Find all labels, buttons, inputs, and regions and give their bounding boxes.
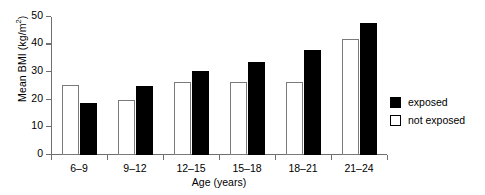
bmi-bar-chart-figure: Mean BMI (kg/m2) 01020304050 6–99–1212–1… <box>0 0 485 195</box>
y-axis-tick: 20 <box>46 99 51 100</box>
bar-not-exposed <box>62 85 79 155</box>
x-axis-category-label: 18–21 <box>288 162 317 174</box>
bar-exposed <box>192 71 209 155</box>
legend-item: exposed <box>390 94 465 110</box>
x-axis-category-label: 15–18 <box>232 162 261 174</box>
y-axis-tick: 10 <box>46 126 51 127</box>
x-axis-tick <box>51 155 52 160</box>
chart-legend: exposednot exposed <box>390 94 465 130</box>
x-axis-tick <box>387 155 388 160</box>
legend-swatch-exposed-icon <box>390 97 401 108</box>
x-axis-tick <box>107 155 108 160</box>
y-axis-tick: 30 <box>46 71 51 72</box>
y-axis-title: Mean BMI (kg/m2) <box>14 0 28 118</box>
bar-exposed <box>136 86 153 155</box>
bar-exposed <box>360 23 377 155</box>
x-axis-tick <box>275 155 276 160</box>
legend-item: not exposed <box>390 112 465 128</box>
legend-item-label: exposed <box>408 96 448 108</box>
y-axis-tick-label: 30 <box>31 64 43 76</box>
x-axis-category-label: 12–15 <box>176 162 205 174</box>
y-axis-title-superscript: 2 <box>14 19 23 23</box>
y-axis-title-text: Mean BMI (kg/m <box>16 23 28 101</box>
y-axis-tick-label: 10 <box>31 119 43 131</box>
bar-not-exposed <box>286 82 303 155</box>
y-axis-tick: 50 <box>46 16 51 17</box>
y-axis-line <box>51 17 52 155</box>
x-axis-tick <box>219 155 220 160</box>
y-axis-tick-label: 20 <box>31 92 43 104</box>
legend-item-label: not exposed <box>408 114 465 126</box>
x-axis-tick <box>331 155 332 160</box>
bar-not-exposed <box>118 100 135 155</box>
x-axis-tick <box>163 155 164 160</box>
x-axis-title: Age (years) <box>51 176 387 188</box>
bar-not-exposed <box>174 82 191 155</box>
y-axis-tick-label: 40 <box>31 36 43 48</box>
x-axis-category-label: 21–24 <box>344 162 373 174</box>
y-axis-title-close-paren: ) <box>16 16 28 20</box>
y-axis-tick: 40 <box>46 43 51 44</box>
plot-area: 01020304050 6–99–1212–1515–1818–2121–24 <box>51 17 387 155</box>
bar-not-exposed <box>342 39 359 155</box>
bar-exposed <box>80 103 97 155</box>
x-axis-category-label: 6–9 <box>70 162 88 174</box>
y-axis-tick-label: 0 <box>37 147 43 159</box>
bar-exposed <box>304 50 321 155</box>
bar-not-exposed <box>230 82 247 155</box>
bar-exposed <box>248 62 265 155</box>
y-axis-tick-label: 50 <box>31 9 43 21</box>
legend-swatch-not-exposed-icon <box>390 115 401 126</box>
x-axis-category-label: 9–12 <box>123 162 146 174</box>
